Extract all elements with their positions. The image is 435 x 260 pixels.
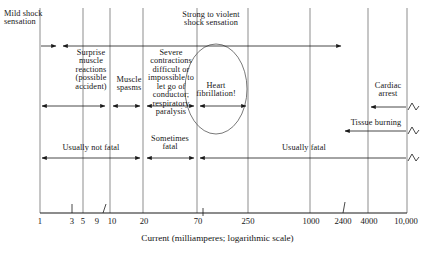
tick-label-1000: 1000	[298, 216, 324, 226]
label-usually-fatal: Usually fatal	[252, 144, 356, 152]
axis-title: Current (milliamperes; logarithmic scale…	[0, 233, 435, 243]
tick-label-1: 1	[33, 216, 47, 226]
arrow-tissue-burning	[345, 127, 419, 134]
diagram-canvas: Mild shock sensation Surprise muscle rea…	[0, 0, 435, 260]
tick-label-9: 9	[90, 216, 104, 226]
label-cardiac-arrest: Cardiac arrest	[369, 82, 407, 99]
tick-2400	[343, 202, 345, 213]
label-heart-fibrillation: Heart fibrillation!	[190, 82, 242, 99]
label-mild-shock: Mild shock sensation	[4, 10, 74, 27]
arrow-row-outcomes	[42, 154, 419, 161]
arrow-cardiac-arrest	[371, 103, 419, 110]
tick-label-10000: 10,000	[389, 216, 423, 226]
break-squiggle-tissue	[408, 127, 419, 134]
tick-label-70: 70	[189, 216, 207, 226]
label-usually-not-fatal: Usually not fatal	[42, 144, 140, 152]
tick-label-5: 5	[76, 216, 90, 226]
axis-ticks	[72, 202, 345, 216]
tick-label-20: 20	[135, 216, 153, 226]
break-squiggle-fatal	[408, 154, 419, 161]
tick-9	[103, 204, 106, 213]
label-tissue-burning: Tissue burning	[345, 119, 407, 127]
tick-label-2400: 2400	[330, 216, 356, 226]
tick-label-250: 250	[237, 216, 259, 226]
label-muscle-spasms: Muscle spasms	[113, 76, 145, 93]
tick-label-4000: 4000	[356, 216, 382, 226]
label-surprise-muscle: Surprise muscle reactions (possible acci…	[64, 49, 118, 91]
break-squiggle-cardiac	[408, 103, 419, 110]
tick-label-10: 10	[103, 216, 121, 226]
gridlines	[40, 8, 407, 213]
label-strong-violent: Strong to violent shock sensation	[152, 11, 270, 28]
label-sometimes-fatal: Sometimes fatal	[146, 135, 194, 152]
